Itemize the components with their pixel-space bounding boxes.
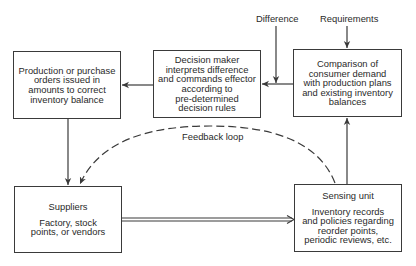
production-orders-node: Production or purchase orders issued in … bbox=[13, 51, 121, 119]
comparison-node: Comparison of consumer demand with produ… bbox=[293, 49, 402, 117]
sensing-unit-node: Sensing unit Inventory records and polic… bbox=[294, 184, 402, 252]
node-text-line: inventory balance bbox=[30, 95, 104, 105]
suppliers-to-sensing-arrowhead bbox=[287, 216, 294, 224]
node-title: Suppliers bbox=[48, 202, 87, 212]
node-text-line: periodic reviews, etc. bbox=[302, 235, 394, 245]
node-text-line: balances bbox=[329, 97, 367, 107]
feedback-loop-label: Feedback loop bbox=[182, 132, 244, 142]
difference-label: Difference bbox=[256, 14, 299, 24]
decision-maker-node: Decision maker interprets difference and… bbox=[153, 50, 261, 118]
node-title: Sensing unit bbox=[322, 191, 374, 201]
requirements-label: Requirements bbox=[320, 14, 378, 24]
suppliers-node: Suppliers Factory, stock points, or vend… bbox=[14, 186, 122, 253]
node-text-line: decision rules bbox=[178, 103, 235, 113]
node-text-line: points, or vendors bbox=[31, 227, 106, 237]
